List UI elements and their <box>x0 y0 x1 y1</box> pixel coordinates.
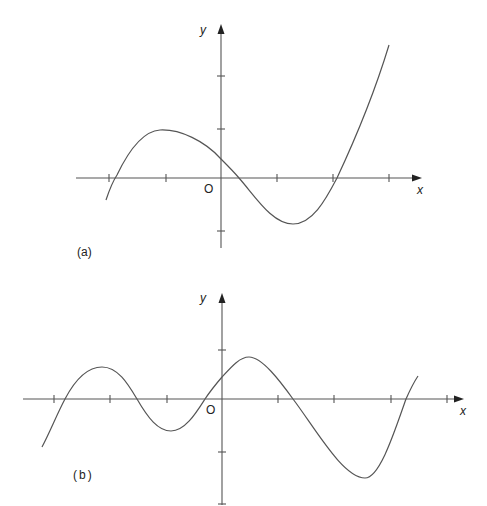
x-axis-label-b: x <box>459 404 467 418</box>
origin-label-b: O <box>206 403 215 417</box>
caption-a: (a) <box>77 245 92 259</box>
origin-label-a: O <box>204 182 213 196</box>
figure-canvas: y x O (a) y x O ( <box>0 0 487 506</box>
y-axis-arrow-icon <box>219 293 226 303</box>
caption-b: (b) <box>73 468 94 482</box>
x-axis-arrow-icon <box>412 175 422 182</box>
curve-a <box>106 45 389 224</box>
y-axis-label-b: y <box>199 291 207 305</box>
x-axis-label-a: x <box>416 183 424 197</box>
graph-a: y x O (a) <box>76 23 424 259</box>
graph-b: y x O (b) <box>23 291 467 505</box>
y-axis-arrow-icon <box>218 24 225 34</box>
x-axis-arrow-icon <box>454 396 464 403</box>
curve-b <box>42 357 418 478</box>
y-axis-label-a: y <box>199 23 207 37</box>
